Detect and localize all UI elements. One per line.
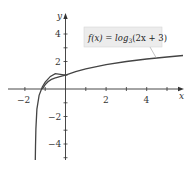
function-label: f(x) = log3(2x + 3): [87, 33, 167, 45]
y-axis-arrow-icon: [63, 13, 67, 19]
function-curve-upper: [42, 56, 183, 90]
x-tick-label: 2: [103, 95, 109, 105]
x-tick-label: 4: [144, 95, 150, 105]
y-tick-label: 2: [55, 57, 61, 67]
log-function-graph: x y −2 2 4 4 2 −2 −4 f(x) = log3(2x + 3): [0, 0, 194, 174]
y-tick-label: 4: [55, 29, 61, 39]
x-tick-label: −2: [17, 95, 30, 105]
x-axis-label: x: [179, 91, 184, 101]
y-axis-label: y: [56, 11, 63, 21]
label-leader-line: [150, 47, 156, 58]
y-tick-label: −4: [48, 139, 62, 149]
y-tick-label: −2: [48, 112, 61, 122]
